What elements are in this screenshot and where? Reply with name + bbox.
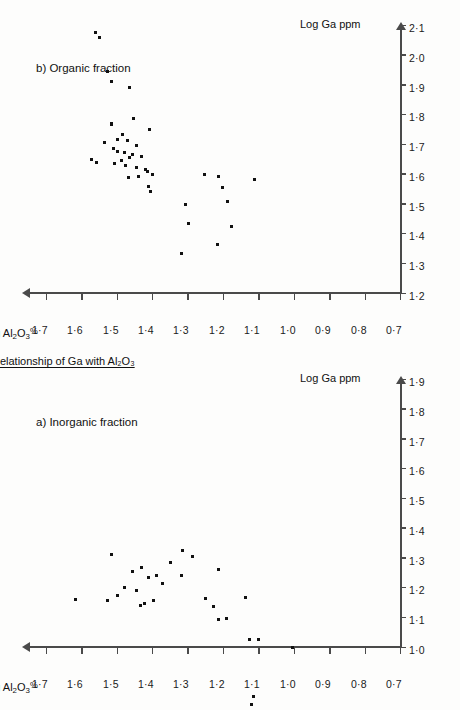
figure-page: 1·01·11·21·31·41·51·61·71·81·90·70·80·91… (0, 0, 460, 710)
data-point (169, 561, 172, 564)
x-tick-label: 1·4 (409, 525, 425, 537)
x-tick (400, 263, 406, 264)
y-tick (117, 294, 118, 300)
data-point (203, 173, 206, 176)
data-point (149, 190, 152, 193)
x-tick-label: 2·0 (409, 52, 425, 64)
x-tick (400, 54, 406, 55)
data-point (230, 226, 233, 229)
data-point (110, 80, 113, 83)
y-tick (294, 294, 295, 300)
data-point (121, 133, 124, 136)
y-tick (187, 648, 188, 654)
panel-a-x-axis-title: Log Ga ppm (300, 372, 361, 384)
data-point (90, 158, 93, 161)
data-point (217, 175, 220, 178)
y-tick (81, 648, 82, 654)
x-tick-label: 1·6 (409, 465, 425, 477)
y-tick-label: 1·2 (209, 678, 225, 690)
data-point (135, 166, 138, 169)
data-point (135, 589, 138, 592)
data-point (151, 173, 154, 176)
data-point (248, 638, 251, 641)
y-tick-label: 1·1 (244, 678, 260, 690)
data-point (147, 576, 150, 579)
x-tick-label: 1·9 (409, 82, 425, 94)
x-tick-label: 1·8 (409, 406, 425, 418)
panel-b-x-axis-line (400, 26, 402, 294)
panel-b-y-axis-title: Log Al2O3% (0, 326, 38, 341)
y-tick (294, 648, 295, 654)
y-tick (329, 648, 330, 654)
panel-b-x-axis-title: Log Ga ppm (300, 18, 361, 30)
y-tick (187, 294, 188, 300)
y-tick (152, 648, 153, 654)
x-tick (400, 174, 406, 175)
data-point (132, 117, 135, 120)
data-point (139, 604, 142, 607)
data-point (128, 86, 131, 89)
data-point (250, 703, 253, 706)
data-point (212, 605, 215, 608)
data-point (225, 617, 228, 620)
data-point (110, 123, 113, 126)
data-point (140, 566, 143, 569)
y-tick (365, 294, 366, 300)
data-point (116, 150, 119, 153)
y-tick-label: 1·1 (244, 324, 260, 336)
panel-a-y-axis-title: Log Al2O3% (0, 680, 38, 695)
x-tick (400, 587, 406, 588)
y-tick-label: 0·7 (386, 324, 402, 336)
data-point (131, 153, 134, 156)
y-tick (223, 294, 224, 300)
x-tick (400, 468, 406, 469)
data-point (180, 252, 183, 255)
data-point (135, 144, 138, 147)
x-tick-label: 1·0 (409, 644, 425, 656)
y-axis-title-o: O (17, 681, 26, 693)
panel-b-title: b) Organic fraction (36, 62, 131, 74)
y-tick-label: 0·9 (315, 324, 331, 336)
y-tick (365, 648, 366, 654)
y-tick (117, 648, 118, 654)
y-tick (258, 648, 259, 654)
data-point (152, 599, 155, 602)
y-tick-label: 1·2 (209, 324, 225, 336)
data-point (140, 155, 143, 158)
data-point (131, 570, 134, 573)
x-tick-label: 1·4 (409, 230, 425, 242)
data-point (126, 139, 129, 142)
x-tick (400, 203, 406, 204)
data-point (226, 200, 229, 203)
panel-organic-fraction: 1·21·31·41·51·61·71·81·92·02·10·70·80·91… (0, 8, 460, 348)
data-point (127, 176, 130, 179)
y-tick-label: 1·0 (280, 324, 296, 336)
data-point (103, 141, 106, 144)
data-point (98, 36, 101, 39)
y-tick (46, 648, 47, 654)
data-point (116, 594, 119, 597)
x-tick-label: 1·5 (409, 201, 425, 213)
data-point (137, 175, 140, 178)
y-tick (46, 294, 47, 300)
y-tick-label: 1·3 (173, 678, 189, 690)
data-point (221, 186, 224, 189)
x-tick (400, 438, 406, 439)
y-tick (400, 648, 401, 654)
data-point (143, 602, 146, 605)
data-point (204, 597, 207, 600)
y-axis-title-percent: % (30, 680, 38, 690)
data-point (180, 574, 183, 577)
data-point (244, 596, 247, 599)
data-point (94, 31, 97, 34)
y-tick-label: 1·4 (138, 678, 154, 690)
data-point (112, 147, 115, 150)
x-tick (400, 528, 406, 529)
panel-inorganic-fraction: 1·01·11·21·31·41·51·61·71·81·90·70·80·91… (0, 362, 460, 702)
data-point (184, 203, 187, 206)
x-tick (400, 144, 406, 145)
x-tick-label: 1·8 (409, 111, 425, 123)
data-point (123, 151, 126, 154)
data-point (148, 128, 151, 131)
y-axis-title-prefix: Log Al (0, 681, 13, 693)
